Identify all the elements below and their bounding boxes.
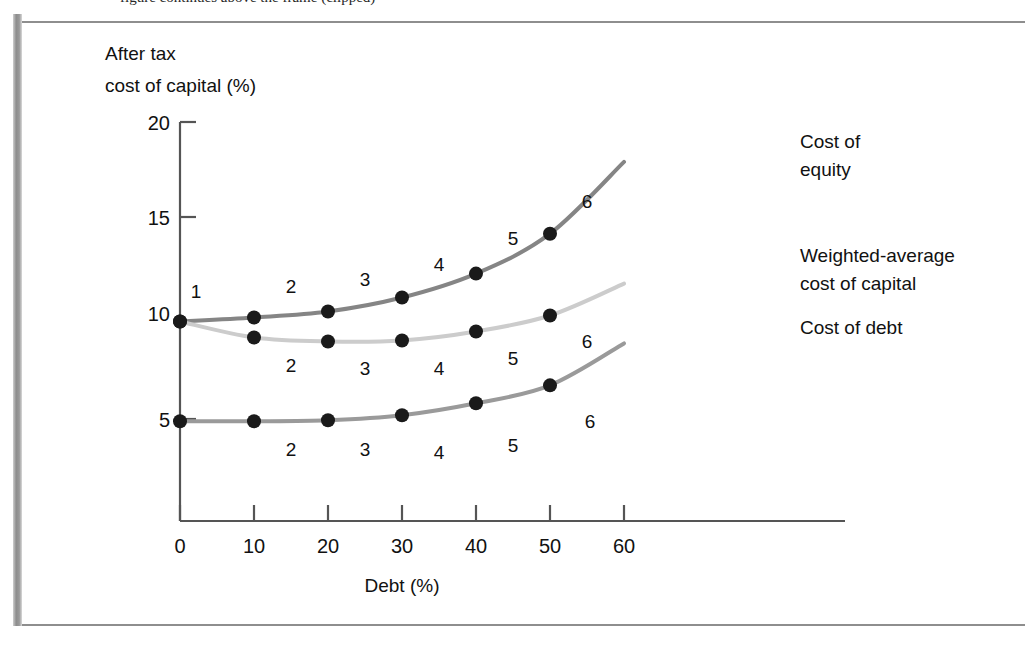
datapoint-cost-of-equity-2 [247, 311, 261, 325]
equity-point-label-5: 5 [508, 228, 519, 249]
x-tick-label-10: 10 [243, 535, 265, 557]
axis-lines [180, 122, 845, 521]
y-axis-title-line1: After tax [105, 43, 176, 64]
chart-plot-area: After tax cost of capital (%) 20 15 10 5… [0, 0, 1025, 653]
wacc-point-label-6: 6 [582, 331, 593, 352]
x-tick-label-0: 0 [174, 535, 185, 557]
datapoint-weighted-average-cost-of-capital-4 [395, 333, 409, 347]
equity-point-label-3: 3 [360, 269, 371, 290]
datapoint-cost-of-debt-2 [247, 414, 261, 428]
equity-point-label-2: 2 [286, 276, 297, 297]
datapoint-weighted-average-cost-of-capital-3 [321, 334, 335, 348]
wacc-point-label-5: 5 [508, 348, 519, 369]
datapoint-weighted-average-cost-of-capital-5 [469, 324, 483, 338]
datapoint-cost-of-equity-5 [469, 267, 483, 281]
datapoint-cost-of-debt-6 [543, 378, 557, 392]
legend-cost-of-equity: Cost of equity [800, 131, 861, 180]
datapoint-cost-of-equity-4 [395, 291, 409, 305]
debt-point-label-4: 4 [434, 442, 445, 463]
chart-svg: After tax cost of capital (%) 20 15 10 5… [0, 0, 1025, 653]
datapoint-cost-of-debt-1 [173, 414, 187, 428]
legend-cost-of-debt: Cost of debt [800, 317, 903, 338]
wacc-point-label-4: 4 [434, 358, 445, 379]
wacc-point-label-3: 3 [360, 358, 371, 379]
datapoint-cost-of-equity-6 [543, 227, 557, 241]
x-tick-label-60: 60 [613, 535, 635, 557]
x-tick-label-20: 20 [317, 535, 339, 557]
legend-equity-line1: Cost of [800, 131, 861, 152]
equity-point-label-6: 6 [582, 191, 593, 212]
legend-wacc-line2: cost of capital [800, 273, 916, 294]
debt-point-label-3: 3 [360, 439, 371, 460]
x-axis-ticks [180, 505, 624, 521]
x-axis-title: Debt (%) [365, 575, 440, 596]
x-tick-label-30: 30 [391, 535, 413, 557]
datapoint-weighted-average-cost-of-capital-6 [543, 309, 557, 323]
equity-point-label-4: 4 [434, 254, 445, 275]
figure-page: figure continues above the frame (clippe… [0, 0, 1025, 653]
legend-wacc-line1: Weighted-average [800, 245, 955, 266]
y-tick-label-5: 5 [159, 409, 170, 431]
datapoint-cost-of-debt-3 [321, 413, 335, 427]
y-tick-label-10: 10 [148, 303, 170, 325]
y-axis-ticks [180, 122, 196, 419]
datapoint-weighted-average-cost-of-capital-2 [247, 330, 261, 344]
debt-point-label-5: 5 [508, 435, 519, 456]
y-axis-title-line2: cost of capital (%) [105, 75, 256, 96]
equity-point-label-1: 1 [191, 281, 202, 302]
legend-debt-line1: Cost of debt [800, 317, 903, 338]
datapoint-weighted-average-cost-of-capital-1 [173, 315, 187, 329]
debt-point-label-6: 6 [585, 411, 596, 432]
y-tick-label-20: 20 [148, 112, 170, 134]
legend-equity-line2: equity [800, 159, 851, 180]
datapoint-cost-of-debt-5 [469, 396, 483, 410]
legend-weighted-average-cost-of-capital: Weighted-average cost of capital [800, 245, 955, 294]
x-tick-label-50: 50 [539, 535, 561, 557]
y-tick-label-15: 15 [148, 207, 170, 229]
datapoint-cost-of-equity-3 [321, 305, 335, 319]
wacc-point-label-2: 2 [286, 355, 297, 376]
datapoint-cost-of-debt-4 [395, 408, 409, 422]
debt-point-label-2: 2 [286, 439, 297, 460]
x-tick-label-40: 40 [465, 535, 487, 557]
